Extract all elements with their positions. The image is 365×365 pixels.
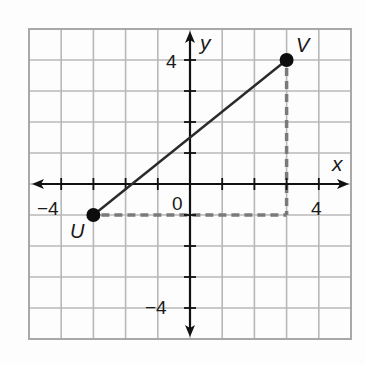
origin-label: 0 [172, 193, 183, 214]
y-tick-label-neg4: −4 [145, 297, 167, 318]
point-v-dot [280, 53, 294, 67]
x-axis-label: x [331, 152, 344, 175]
point-u-label: U [70, 220, 85, 242]
x-tick-label-4: 4 [311, 198, 322, 219]
coordinate-plane-figure: y x 0 −4 4 4 −4 U V [0, 0, 365, 365]
point-u-dot [86, 208, 100, 222]
y-axis-label: y [198, 31, 212, 54]
y-tick-label-4: 4 [166, 51, 177, 72]
coordinate-plane: y x 0 −4 4 4 −4 U V [0, 0, 365, 365]
point-v-label: V [296, 34, 311, 56]
x-tick-label-neg4: −4 [37, 198, 59, 219]
